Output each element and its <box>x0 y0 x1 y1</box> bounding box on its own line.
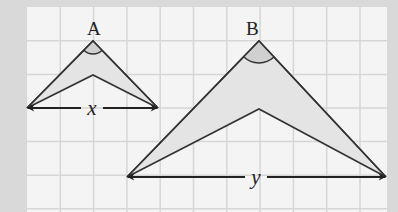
similar-arrowheads-diagram: Ax By <box>0 0 398 212</box>
vertex-label: A <box>87 18 101 39</box>
dimension-label: x <box>86 96 97 120</box>
dimension-label: y <box>249 165 261 189</box>
diagram-canvas: Ax By <box>0 0 398 212</box>
vertex-label: B <box>246 18 259 39</box>
